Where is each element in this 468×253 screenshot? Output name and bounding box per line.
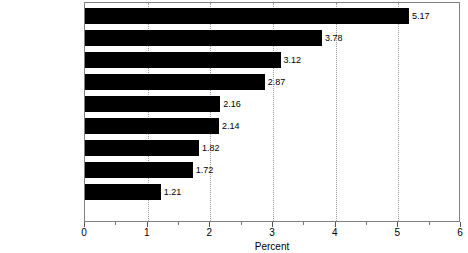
x-tick-minor [366, 222, 367, 225]
x-tick-minor [429, 222, 430, 225]
x-axis-title: Percent [255, 242, 289, 252]
x-tick-minor [178, 222, 179, 225]
x-tick-label: 4 [332, 228, 338, 238]
x-tick-label: 1 [144, 228, 150, 238]
x-tick-label: 2 [207, 228, 213, 238]
x-tick-minor [303, 222, 304, 225]
category-axis-labels: JapanItalyFranceWest GermanySwedenUnited… [0, 2, 468, 222]
x-tick-minor [115, 222, 116, 225]
x-tick-label: 3 [269, 228, 275, 238]
x-tick-minor [241, 222, 242, 225]
x-tick-label: 6 [457, 228, 463, 238]
x-tick-label: 0 [81, 228, 87, 238]
x-tick-label: 5 [395, 228, 401, 238]
x-axis: Percent 0123456 [84, 222, 460, 253]
bar-chart: 5.173.783.122.872.162.141.821.721.21 Jap… [0, 0, 468, 253]
